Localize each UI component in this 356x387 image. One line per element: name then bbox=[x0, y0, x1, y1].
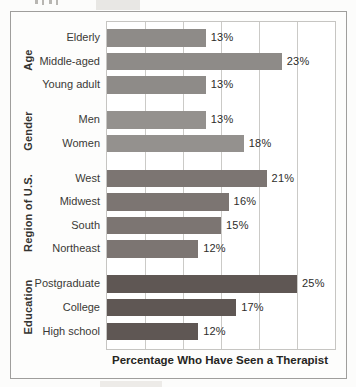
category-label-women: Women bbox=[62, 136, 100, 150]
category-label-west: West bbox=[75, 171, 100, 185]
value-label-south: 15% bbox=[226, 217, 249, 235]
category-label-men: Men bbox=[79, 112, 100, 126]
category-label-high-school: High school bbox=[43, 324, 100, 338]
value-label-women: 18% bbox=[249, 135, 272, 153]
value-label-young-adult: 13% bbox=[211, 76, 234, 94]
gridline-25 bbox=[297, 22, 298, 349]
bar-men bbox=[107, 111, 206, 129]
value-label-postgraduate: 25% bbox=[302, 275, 325, 293]
bar-south bbox=[107, 217, 221, 235]
category-label-young-adult: Young adult bbox=[42, 77, 100, 91]
chart-container: 13%23%13%13%18%21%16%15%12%25%17%12% Per… bbox=[10, 11, 347, 379]
category-label-northeast: Northeast bbox=[52, 241, 100, 255]
bar-college bbox=[107, 299, 236, 317]
bar-young-adult bbox=[107, 76, 206, 94]
value-label-high-school: 12% bbox=[203, 323, 226, 341]
group-label-region-of-u-s: Region of U.S. bbox=[22, 174, 34, 252]
group-label-gender: Gender bbox=[22, 111, 34, 151]
bar-midwest bbox=[107, 193, 229, 211]
value-label-midwest: 16% bbox=[234, 193, 257, 211]
category-label-midwest: Midwest bbox=[60, 194, 100, 208]
bar-northeast bbox=[107, 240, 198, 258]
category-label-college: College bbox=[63, 300, 100, 314]
bar-high-school bbox=[107, 323, 198, 341]
value-label-middle-aged: 23% bbox=[287, 53, 310, 71]
bar-women bbox=[107, 135, 244, 153]
x-axis-title: Percentage Who Have Seen a Therapist bbox=[106, 354, 334, 366]
scan-shading-top bbox=[96, 0, 140, 10]
bar-elderly bbox=[107, 29, 206, 47]
bar-postgraduate bbox=[107, 275, 297, 293]
category-label-south: South bbox=[71, 218, 100, 232]
category-label-middle-aged: Middle-aged bbox=[39, 54, 100, 68]
bar-middle-aged bbox=[107, 53, 282, 71]
value-label-men: 13% bbox=[211, 111, 234, 129]
scan-shading-bottom bbox=[100, 381, 162, 387]
value-label-northeast: 12% bbox=[203, 240, 226, 258]
value-label-elderly: 13% bbox=[211, 29, 234, 47]
category-label-elderly: Elderly bbox=[66, 30, 100, 44]
value-label-west: 21% bbox=[272, 170, 295, 188]
category-label-postgraduate: Postgraduate bbox=[35, 276, 100, 290]
value-label-college: 17% bbox=[241, 299, 264, 317]
group-label-education: Education bbox=[22, 279, 34, 334]
plot-area: 13%23%13%13%18%21%16%15%12%25%17%12% bbox=[106, 21, 336, 350]
bar-west bbox=[107, 170, 267, 188]
group-label-age: Age bbox=[22, 50, 34, 71]
